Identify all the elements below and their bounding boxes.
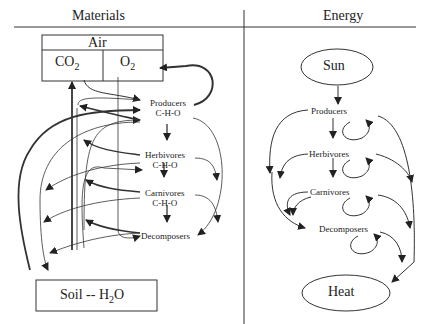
- energy-decomposers: Decomposers: [319, 224, 368, 234]
- herbivores-node: Herbivores C-H-O: [145, 150, 185, 170]
- soil-label: Soil -- H2O: [60, 287, 124, 303]
- energy-header: Energy: [323, 8, 363, 24]
- energy-herbivores: Herbivores: [309, 149, 349, 159]
- sun-label: Sun: [323, 58, 345, 74]
- producers-node: Producers C-H-O: [150, 98, 186, 118]
- carnivores-node: Carnivores C-H-O: [145, 188, 185, 208]
- co2-label: CO2: [55, 54, 79, 70]
- heat-label: Heat: [328, 284, 354, 300]
- diagram-canvas: [0, 0, 427, 324]
- materials-header: Materials: [72, 8, 125, 24]
- o2-label: O2: [120, 54, 135, 70]
- air-label: Air: [88, 35, 107, 51]
- decomposers-node: Decomposers: [141, 231, 190, 241]
- energy-producers: Producers: [311, 106, 347, 116]
- energy-carnivores: Carnivores: [310, 187, 350, 197]
